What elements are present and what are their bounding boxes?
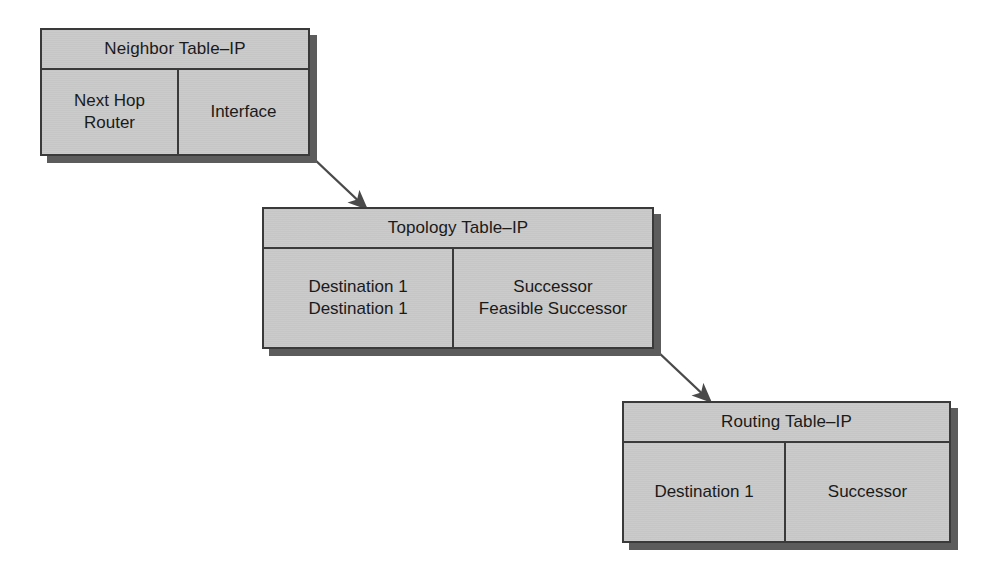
- cell-text-line: Destination 1: [654, 481, 753, 503]
- neighbor-table-box: Neighbor Table–IP Next Hop Router Interf…: [40, 28, 310, 156]
- topology-table-box: Topology Table–IP Destination 1 Destinat…: [262, 207, 654, 349]
- cell-text-line: Feasible Successor: [479, 298, 627, 320]
- routing-table-box: Routing Table–IP Destination 1 Successor: [622, 401, 951, 543]
- routing-table-cell-destination: Destination 1: [624, 443, 784, 541]
- neighbor-table-cell-next-hop-router: Next Hop Router: [42, 70, 177, 154]
- routing-table-body: Destination 1 Successor: [624, 443, 949, 541]
- cell-text-line: Next Hop: [74, 90, 145, 112]
- routing-table-title: Routing Table–IP: [624, 403, 949, 443]
- cell-text-line: Router: [84, 112, 135, 134]
- cell-text-line: Interface: [210, 101, 276, 123]
- neighbor-table-cell-interface: Interface: [177, 70, 308, 154]
- topology-table-cell-successors: Successor Feasible Successor: [452, 249, 652, 347]
- neighbor-table-title: Neighbor Table–IP: [42, 30, 308, 70]
- cell-text-line: Destination 1: [308, 298, 407, 320]
- topology-table-body: Destination 1 Destination 1 Successor Fe…: [264, 249, 652, 347]
- routing-table-cell-successor: Successor: [784, 443, 949, 541]
- neighbor-table-body: Next Hop Router Interface: [42, 70, 308, 154]
- arrow-neighbor-to-topology: [313, 158, 366, 208]
- arrow-topology-to-routing: [657, 351, 710, 401]
- cell-text-line: Successor: [828, 481, 907, 503]
- cell-text-line: Successor: [513, 276, 592, 298]
- diagram-canvas: Neighbor Table–IP Next Hop Router Interf…: [0, 0, 990, 573]
- cell-text-line: Destination 1: [308, 276, 407, 298]
- topology-table-cell-destinations: Destination 1 Destination 1: [264, 249, 452, 347]
- topology-table-title: Topology Table–IP: [264, 209, 652, 249]
